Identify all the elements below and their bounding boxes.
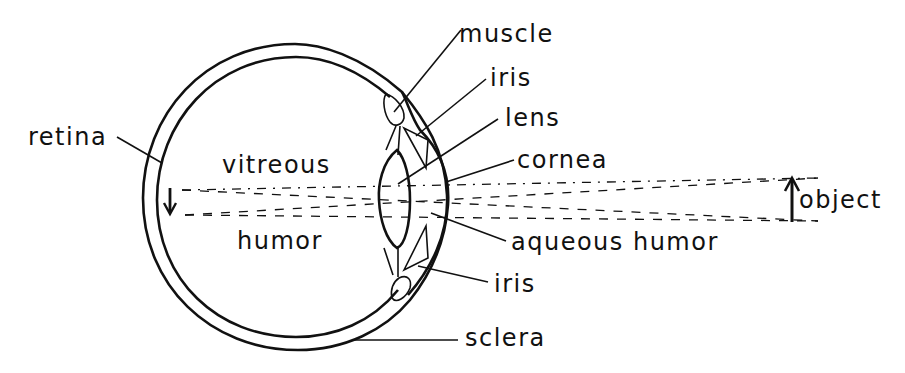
leader-muscle xyxy=(394,30,461,112)
image-arrow-icon xyxy=(164,188,176,214)
eye-diagram xyxy=(0,0,905,373)
label-aqueous-humor: aqueous humor xyxy=(511,230,719,254)
label-retina: retina xyxy=(28,125,107,149)
leader-iris-top xyxy=(416,79,486,136)
ciliary-muscle-bottom xyxy=(391,277,410,301)
label-sclera: sclera xyxy=(465,326,546,350)
label-iris-bottom: iris xyxy=(494,272,536,296)
object-arrow-icon xyxy=(785,178,799,222)
label-object: object xyxy=(799,188,882,212)
sclera-outer xyxy=(143,44,448,350)
leader-retina xyxy=(117,137,162,163)
ciliary-muscle-top xyxy=(384,94,404,125)
label-humor: humor xyxy=(237,229,323,253)
label-lens: lens xyxy=(505,106,560,130)
leader-lens xyxy=(398,119,498,184)
label-vitreous: vitreous xyxy=(222,153,331,177)
retina-inner xyxy=(157,57,398,337)
leader-cornea xyxy=(446,160,514,182)
label-muscle: muscle xyxy=(459,22,554,46)
label-cornea: cornea xyxy=(517,148,608,172)
ligament-bottom xyxy=(384,246,398,277)
ray-upper xyxy=(182,178,818,190)
lens xyxy=(379,150,410,248)
ray-cross-b xyxy=(185,178,818,215)
label-iris-top: iris xyxy=(490,66,532,90)
